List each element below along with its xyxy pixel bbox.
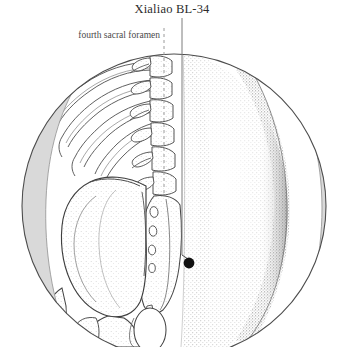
anatomical-illustration — [0, 0, 344, 347]
circular-cutaway — [0, 0, 344, 347]
figure-container: Xialiao BL-34 fourth sacral foramen — [0, 0, 344, 347]
acupoint-marker-bl34[interactable] — [184, 258, 195, 269]
